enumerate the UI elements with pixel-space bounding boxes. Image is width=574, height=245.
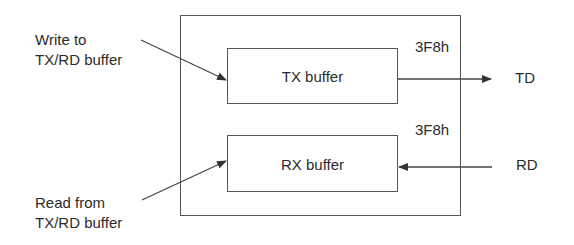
write-arrow-icon <box>141 40 226 80</box>
arrows-layer <box>0 0 574 245</box>
read-arrow-icon <box>142 161 226 200</box>
